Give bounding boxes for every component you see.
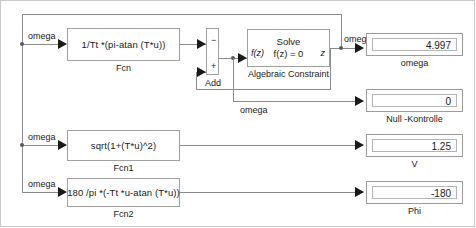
arrowhead-v-display-input — [355, 140, 364, 150]
display-value-null-kontrolle: 0 — [372, 94, 457, 107]
fcn1-block-label: Fcn1 — [67, 163, 180, 173]
display-label-omega: omega — [366, 58, 463, 68]
signal-label-omega-fcn2-in: omega — [28, 179, 56, 189]
display-value-omega: 4.997 — [372, 38, 457, 51]
add-block-plus-sign: + — [211, 62, 216, 71]
algebraic-constraint-equation-text: f(z) = 0 — [248, 48, 329, 59]
add-block-minus-sign: − — [211, 36, 216, 45]
wire-left-bus — [22, 14, 23, 192]
wire-fcn1-to-v-display — [180, 145, 363, 146]
arrowhead-algebraic-input — [238, 53, 247, 63]
add-block-label: Add — [192, 78, 234, 88]
display-block-omega[interactable]: 4.997 — [366, 33, 463, 56]
algebraic-constraint-output-port-label: z — [321, 48, 326, 58]
signal-label-omega-fcn1-in: omega — [28, 132, 56, 142]
fcn1-block-expression: sqrt(1+(T*u)^2) — [91, 140, 156, 151]
fcn-block[interactable]: 1/Tt *(pi-atan (T*u)) — [67, 28, 180, 61]
display-label-null-kontrolle: Null -Kontrolle — [366, 114, 463, 124]
simulink-diagram-canvas: omega omega omega omega omega 1/Tt *(pi-… — [0, 0, 476, 228]
wire-fcn2-to-phi-display — [180, 192, 363, 193]
display-block-null-kontrolle[interactable]: 0 — [366, 89, 463, 112]
display-block-v[interactable]: 1.25 — [366, 134, 463, 157]
fcn2-block-expression: 180 /pi *(-Tt *u-atan (T*u)) — [67, 187, 180, 198]
arrowhead-null-kontrolle-input — [355, 96, 364, 106]
display-value-phi: -180 — [372, 186, 457, 199]
junction-z-output — [339, 46, 343, 50]
algebraic-constraint-block-label: Algebraic Constraint — [228, 69, 349, 79]
fcn-block-label: Fcn — [67, 63, 180, 73]
add-block[interactable]: − + — [206, 28, 219, 75]
display-label-phi: Phi — [366, 206, 463, 216]
algebraic-constraint-solve-text: Solve — [248, 36, 329, 47]
arrowhead-phi-display-input — [355, 187, 364, 197]
wire-feedback-top-right-drop — [341, 14, 342, 48]
arrowhead-fcn-input — [58, 39, 67, 49]
fcn2-block-label: Fcn2 — [67, 209, 180, 219]
arrowhead-fcn2-input — [58, 187, 67, 197]
display-block-phi[interactable]: -180 — [366, 181, 463, 204]
fcn-block-expression: 1/Tt *(pi-atan (T*u)) — [82, 39, 166, 50]
arrowhead-fcn1-input — [58, 140, 67, 150]
display-value-v: 1.25 — [372, 139, 457, 152]
fcn2-block[interactable]: 180 /pi *(-Tt *u-atan (T*u)) — [67, 178, 180, 207]
arrowhead-omega-display-input — [355, 43, 364, 53]
wire-algebraic-feedback-left — [196, 89, 331, 90]
junction-fcn-branch — [20, 42, 24, 46]
signal-label-omega-feedback: omega — [240, 105, 268, 115]
signal-label-omega-fcn-in: omega — [28, 31, 56, 41]
fcn1-block[interactable]: sqrt(1+(T*u)^2) — [67, 130, 180, 161]
arrowhead-add-minus-input — [197, 39, 206, 49]
wire-to-null-kontrolle — [233, 101, 363, 102]
arrowhead-add-plus-input — [197, 67, 206, 77]
algebraic-constraint-block[interactable]: f(z) Solve f(z) = 0 z — [247, 29, 330, 67]
wire-feedback-top — [22, 14, 341, 15]
display-label-v: V — [366, 159, 463, 169]
junction-fcn1-branch — [20, 143, 24, 147]
